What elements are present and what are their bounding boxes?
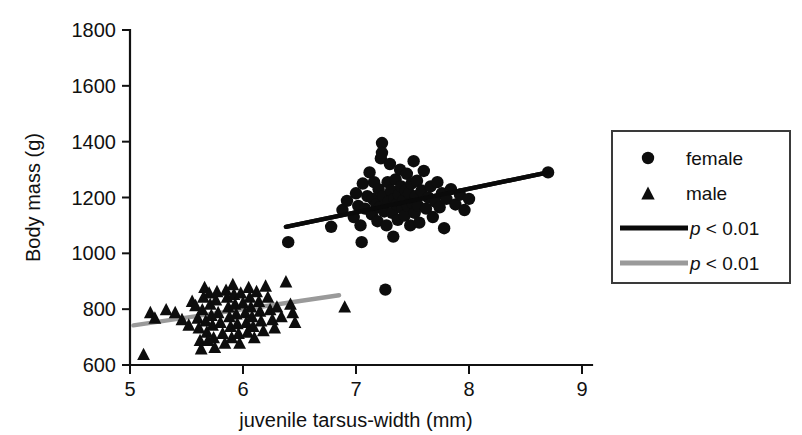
data-point-male bbox=[338, 300, 351, 312]
data-point-female bbox=[357, 177, 369, 189]
data-point-female bbox=[355, 236, 367, 248]
x-tick-label: 5 bbox=[124, 378, 135, 400]
scatter-plot: 6008001000120014001600180056789 juvenile… bbox=[0, 0, 802, 435]
x-tick-label: 8 bbox=[463, 378, 474, 400]
data-point-female bbox=[463, 193, 475, 205]
y-tick-label: 1600 bbox=[72, 75, 117, 97]
data-points bbox=[137, 137, 554, 360]
legend: femalemalep < 0.01p < 0.01 bbox=[612, 131, 790, 283]
data-point-male bbox=[226, 278, 239, 290]
y-tick-label: 1800 bbox=[72, 19, 117, 41]
y-tick-label: 1000 bbox=[72, 242, 117, 264]
x-tick-label: 9 bbox=[576, 378, 587, 400]
data-point-female bbox=[325, 221, 337, 233]
y-tick-label: 800 bbox=[83, 298, 116, 320]
y-tick-label: 600 bbox=[83, 354, 116, 376]
data-point-female bbox=[431, 176, 443, 188]
data-point-female bbox=[407, 155, 419, 167]
data-point-female bbox=[380, 219, 392, 231]
legend-p-symbol: p bbox=[689, 253, 701, 274]
data-point-male bbox=[261, 290, 274, 302]
legend-entry-label: male bbox=[686, 183, 727, 204]
legend-entry-label: p < 0.01 bbox=[689, 218, 759, 239]
chart-figure: 6008001000120014001600180056789 juvenile… bbox=[0, 0, 802, 435]
legend-p-symbol: p bbox=[689, 218, 701, 239]
y-tick-label: 1200 bbox=[72, 187, 117, 209]
legend-p-value: < 0.01 bbox=[701, 253, 760, 274]
data-point-male bbox=[160, 303, 173, 315]
data-point-female bbox=[376, 147, 388, 159]
x-tick-label: 7 bbox=[350, 378, 361, 400]
legend-p-value: < 0.01 bbox=[701, 218, 760, 239]
data-point-female bbox=[413, 216, 425, 228]
data-point-female bbox=[458, 204, 470, 216]
data-point-male bbox=[259, 279, 272, 291]
x-tick-label: 6 bbox=[237, 378, 248, 400]
data-point-female bbox=[379, 283, 391, 295]
data-point-male bbox=[280, 275, 293, 287]
data-point-female bbox=[354, 219, 366, 231]
data-point-female bbox=[282, 236, 294, 248]
plot-axes: 6008001000120014001600180056789 bbox=[72, 19, 593, 400]
data-point-female bbox=[418, 165, 430, 177]
legend-entry-label: p < 0.01 bbox=[689, 253, 759, 274]
data-point-female bbox=[438, 222, 450, 234]
data-point-male bbox=[242, 281, 255, 293]
data-point-female bbox=[387, 230, 399, 242]
data-point-male bbox=[137, 348, 150, 360]
y-tick-label: 1400 bbox=[72, 131, 117, 153]
legend-entry-label: female bbox=[686, 148, 743, 169]
y-axis-title: Body mass (g) bbox=[22, 133, 44, 262]
x-axis-title: juvenile tarsus-width (mm) bbox=[238, 409, 472, 431]
legend-marker-circle bbox=[642, 152, 654, 164]
